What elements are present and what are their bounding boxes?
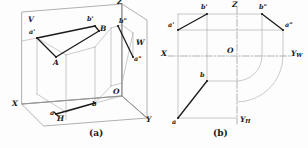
construction-lines-b — [178, 14, 283, 118]
diagram-a-geometry — [22, 4, 147, 126]
origin-label-a: O — [113, 88, 120, 96]
line-ab-projections-b — [178, 14, 283, 118]
diagram-b-geometry — [168, 7, 292, 124]
axis-label-yh-b: YH — [240, 116, 250, 125]
plane-label-h: H — [57, 115, 64, 123]
axes-a — [22, 4, 147, 118]
axis-label-z-a: Z — [117, 0, 122, 6]
h-plane-outline — [22, 96, 147, 126]
axis-label-yw-b: YW — [291, 50, 302, 59]
point-label-b-top-a: b — [92, 101, 97, 108]
point-label-A-a: A — [53, 59, 59, 67]
figure-canvas: V Z X Y O H W A B a' b' a" b" a b Z X O … — [0, 0, 308, 148]
point-label-a-top-a: a — [50, 110, 54, 117]
point-label-b-front-a: b' — [87, 16, 94, 23]
axis-label-y-a: Y — [146, 116, 151, 124]
point-markers-b — [177, 13, 284, 119]
caption-b: (b) — [213, 128, 228, 138]
point-label-b-side-a: b" — [119, 18, 127, 25]
point-label-a-side-a: a" — [134, 56, 142, 63]
axis-label-x-a: X — [12, 100, 18, 108]
plane-label-w: W — [136, 39, 144, 47]
axis-label-yw-subscript: W — [296, 52, 302, 58]
figure-drawing — [0, 0, 308, 148]
point-label-b-top-b: b — [200, 72, 205, 79]
point-label-b-front-b: b' — [201, 4, 208, 11]
axis-label-yh-subscript: H — [245, 118, 250, 124]
line-ab-and-projections-a — [37, 26, 133, 116]
axis-label-z-b: Z — [232, 1, 237, 9]
point-label-a-side-b: a" — [285, 22, 293, 29]
plane-label-v: V — [28, 16, 34, 24]
caption-a: (a) — [89, 128, 103, 138]
axis-label-x-b: X — [161, 50, 167, 58]
point-label-b-side-b: b" — [259, 4, 267, 11]
point-label-a-top-b: a — [172, 119, 176, 126]
origin-label-b: O — [227, 47, 234, 55]
point-label-B-a: B — [100, 25, 106, 33]
point-label-a-front-b: a' — [168, 22, 174, 29]
point-label-a-front-a: a' — [29, 29, 35, 36]
